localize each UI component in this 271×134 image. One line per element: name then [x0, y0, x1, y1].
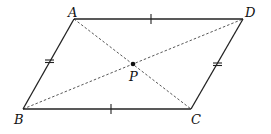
label-b: B [13, 112, 24, 127]
side-dc [191, 19, 243, 109]
label-a: A [67, 5, 77, 20]
label-p: P [128, 69, 138, 84]
label-c: C [191, 112, 201, 127]
side-ab [23, 19, 74, 109]
point-p [131, 62, 136, 67]
label-d: D [244, 5, 256, 20]
parallelogram-diagram: A D B C P [0, 0, 271, 134]
